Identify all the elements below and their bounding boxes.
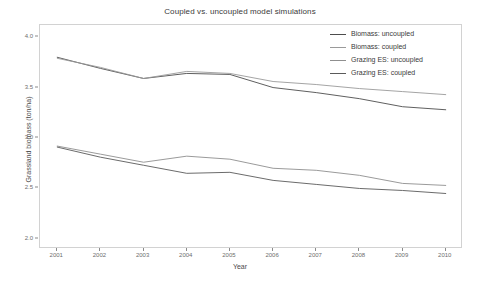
chart-legend: Biomass: uncoupled Biomass: coupled Graz… bbox=[330, 28, 423, 78]
x-axis-tick-label: 2008 bbox=[338, 252, 378, 258]
x-axis-tick-label: 2002 bbox=[79, 252, 119, 258]
x-axis-tick-label: 2001 bbox=[36, 252, 76, 258]
legend-line-swatch-biomass-coupled bbox=[330, 43, 346, 51]
legend-item[interactable]: Biomass: coupled bbox=[330, 41, 423, 52]
y-axis-tick-label: 3.5 bbox=[11, 84, 33, 90]
y-axis-tick-mark bbox=[35, 86, 38, 87]
y-axis-tick-mark bbox=[35, 187, 38, 188]
x-axis-tick-label: 2005 bbox=[209, 252, 249, 258]
legend-line-swatch-biomass-uncoupled bbox=[330, 30, 346, 38]
y-axis-tick-label: 2.0 bbox=[11, 235, 33, 241]
legend-line-swatch-grazing-es-coupled bbox=[330, 69, 346, 77]
x-axis-tick-label: 2006 bbox=[252, 252, 292, 258]
x-axis-tick-label: 2009 bbox=[382, 252, 422, 258]
legend-item[interactable]: Grazing ES: uncoupled bbox=[330, 54, 423, 65]
y-axis-tick-label: 3.0 bbox=[11, 134, 33, 140]
x-axis-tick-label: 2003 bbox=[123, 252, 163, 258]
chart-figure: Coupled vs. uncoupled model simulations … bbox=[0, 0, 480, 285]
y-axis-tick-mark bbox=[35, 237, 38, 238]
x-axis-tick-label: 2010 bbox=[425, 252, 465, 258]
series-line bbox=[57, 146, 445, 185]
legend-label: Biomass: coupled bbox=[351, 43, 406, 50]
legend-label: Grazing ES: coupled bbox=[351, 69, 415, 76]
chart-title: Coupled vs. uncoupled model simulations bbox=[0, 7, 480, 16]
y-axis-tick-mark bbox=[35, 36, 38, 37]
y-axis-tick-label: 4.0 bbox=[11, 33, 33, 39]
legend-label: Biomass: uncoupled bbox=[351, 30, 414, 37]
x-axis-tick-label: 2004 bbox=[166, 252, 206, 258]
legend-label: Grazing ES: uncoupled bbox=[351, 56, 423, 63]
x-axis-title: Year bbox=[0, 263, 480, 270]
series-line bbox=[57, 147, 445, 193]
legend-item[interactable]: Grazing ES: coupled bbox=[330, 67, 423, 78]
x-axis-tick-label: 2007 bbox=[295, 252, 335, 258]
y-axis-tick-label: 2.5 bbox=[11, 184, 33, 190]
legend-item[interactable]: Biomass: uncoupled bbox=[330, 28, 423, 39]
y-axis-tick-mark bbox=[35, 137, 38, 138]
legend-line-swatch-grazing-es-uncoupled bbox=[330, 56, 346, 64]
